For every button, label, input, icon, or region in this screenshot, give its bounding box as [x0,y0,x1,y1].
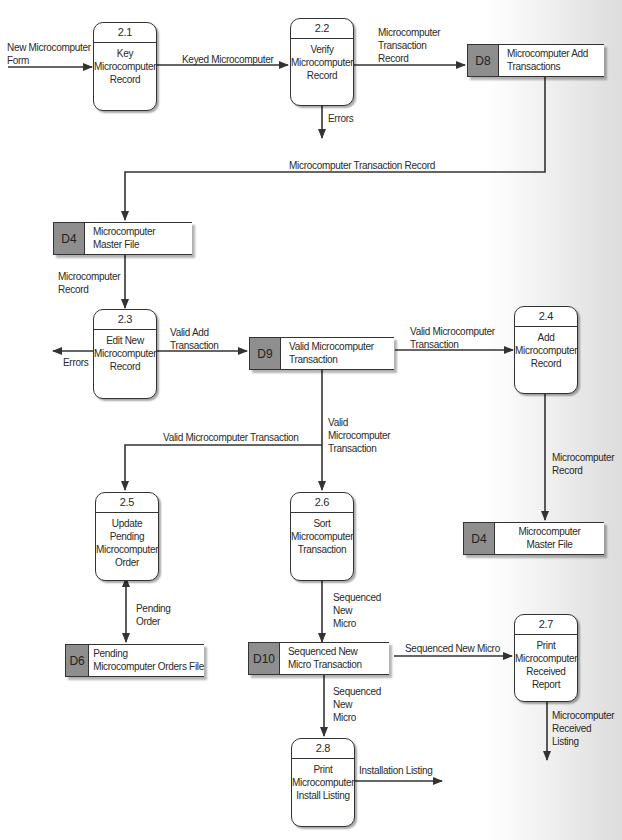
process-2-8: 2.8 Print Microcomputer Install Listing [291,738,355,827]
data-store-d10: D10 Sequenced New Micro Transaction [248,642,389,675]
process-2-5: 2.5 Update Pending Microcomputer Order [95,492,159,581]
process-id: 2.7 [515,615,577,635]
store-id: D4 [54,223,85,254]
flow-label: Keyed Microcomputer [182,53,274,66]
store-name: Microcomputer Master File [85,223,192,254]
data-flow-diagram: 2.1 Key Microcomputer Record 2.2 Verify … [0,0,622,840]
data-store-d6: D6 Pending Microcomputer Orders File [65,644,204,677]
flow-label: New Microcomputer Form [7,41,91,67]
flow-label: Microcomputer Record [552,451,614,477]
data-store-d8: D8 Microcomputer Add Transactions [467,44,604,77]
process-id: 2.2 [291,19,353,39]
process-2-2: 2.2 Verify Microcomputer Record [290,18,354,106]
process-id: 2.8 [292,739,354,759]
process-2-4: 2.4 Add Microcomputer Record [514,306,578,394]
process-id: 2.1 [94,23,156,43]
flow-label: Valid Microcomputer Transaction [328,416,390,455]
flow-label: Errors [63,356,88,369]
process-id: 2.5 [96,493,158,513]
process-name: Update Pending Microcomputer Order [96,513,158,569]
process-2-3: 2.3 Edit New Microcomputer Record [93,309,157,399]
store-id: D6 [66,645,89,676]
flow-label: Sequenced New Micro [333,685,381,724]
process-id: 2.6 [291,493,353,513]
process-name: Verify Microcomputer Record [291,39,353,82]
store-id: D8 [468,45,499,76]
flow-d9-25 [125,445,322,490]
flow-label: Errors [328,112,353,125]
data-store-d4-top: D4 Microcomputer Master File [53,222,192,255]
store-name: Microcomputer Add Transactions [499,45,604,76]
data-store-d4-right: D4 Microcomputer Master File [463,522,604,555]
process-name: Add Microcomputer Record [515,327,577,370]
store-id: D4 [464,523,495,554]
flow-label: Microcomputer Transaction Record [378,26,440,65]
flow-label: Sequenced New Micro [405,642,500,655]
store-name: Microcomputer Master File [495,523,604,554]
store-name: Sequenced New Micro Transaction [280,643,389,674]
store-name: Pending Microcomputer Orders File [89,645,204,676]
flow-label: Microcomputer Record [58,270,120,296]
process-name: Print Microcomputer Received Report [515,635,577,691]
flow-label: Microcomputer Received Listing [552,709,614,748]
flow-lines [0,0,622,840]
process-name: Print Microcomputer Install Listing [292,759,354,802]
flow-label: Valid Microcomputer Transaction [410,325,495,351]
process-id: 2.3 [94,310,156,330]
process-id: 2.4 [515,307,577,327]
store-id: D9 [250,338,281,369]
store-name: Valid Microcomputer Transaction [281,338,394,369]
process-2-7: 2.7 Print Microcomputer Received Report [514,614,578,702]
process-2-6: 2.6 Sort Microcomputer Transaction [290,492,354,581]
flow-label: Valid Add Transaction [170,326,219,352]
flow-label: Microcomputer Transaction Record [289,159,435,172]
process-2-1: 2.1 Key Microcomputer Record [93,22,157,111]
process-name: Key Microcomputer Record [94,43,156,86]
flow-label: Valid Microcomputer Transaction [163,431,299,444]
flow-label: Pending Order [136,602,171,628]
process-name: Sort Microcomputer Transaction [291,513,353,556]
process-name: Edit New Microcomputer Record [94,330,156,373]
store-id: D10 [249,643,280,674]
data-store-d9: D9 Valid Microcomputer Transaction [249,337,394,370]
flow-label: Installation Listing [359,764,433,777]
flow-label: Sequenced New Micro [333,591,381,630]
